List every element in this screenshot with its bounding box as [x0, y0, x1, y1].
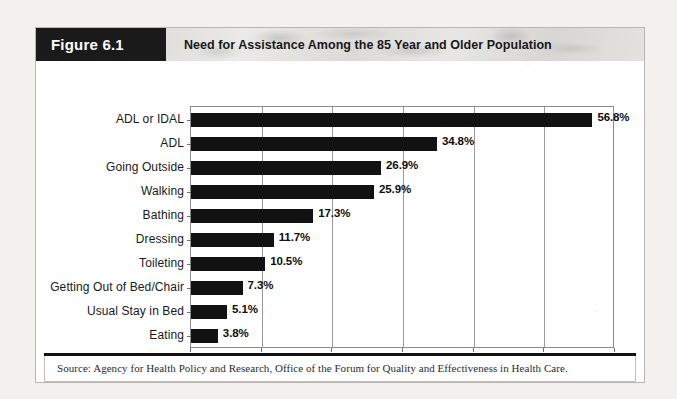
- x-axis-tick: [190, 348, 191, 352]
- figure-number-tag: Figure 6.1: [36, 28, 166, 61]
- source-box: Source: Agency for Health Policy and Res…: [44, 356, 636, 382]
- plot-area: 56.8%34.8%26.9%25.9%17.3%11.7%10.5%7.3%5…: [190, 106, 614, 348]
- bar-value-label: 5.1%: [232, 303, 258, 315]
- bar-value-label: 25.9%: [379, 183, 411, 195]
- bar: [191, 185, 374, 199]
- bar-value-label: 34.8%: [442, 135, 474, 147]
- bar: [191, 257, 265, 271]
- category-label: Getting Out of Bed/Chair: [50, 275, 184, 299]
- bar-value-label: 17.3%: [318, 207, 350, 219]
- bar: [191, 329, 218, 343]
- bar-row: 17.3%: [191, 204, 613, 228]
- bar: [191, 137, 437, 151]
- bar-value-label: 11.7%: [279, 231, 310, 243]
- category-label: Usual Stay in Bed: [87, 299, 184, 323]
- category-label: Toileting: [139, 251, 184, 275]
- category-label: ADL: [160, 131, 184, 155]
- category-label: Eating: [149, 323, 184, 347]
- x-axis-tick: [331, 348, 332, 352]
- bar-row: 3.8%: [191, 324, 613, 348]
- bar: [191, 305, 227, 319]
- bar-row: 10.5%: [191, 252, 613, 276]
- x-axis-tick: [543, 348, 544, 352]
- figure-container: Figure 6.1 Need for Assistance Among the…: [35, 27, 645, 383]
- bar-row: 34.8%: [191, 132, 613, 156]
- bar-row: 11.7%: [191, 228, 613, 252]
- source-note: Source: Agency for Health Policy and Res…: [57, 362, 568, 374]
- x-axis-tick: [473, 348, 474, 352]
- category-label: ADL or IDAL: [116, 107, 184, 131]
- bar: [191, 281, 243, 295]
- bar: [191, 113, 592, 127]
- category-label: Going Outside: [106, 155, 184, 179]
- category-label: Dressing: [136, 227, 184, 251]
- chart-area: ADL or IDALADLGoing OutsideWalkingBathin…: [36, 61, 644, 349]
- x-axis-tick: [614, 348, 615, 352]
- bar-value-label: 56.8%: [597, 111, 629, 123]
- bar-row: 5.1%: [191, 300, 613, 324]
- bar-value-label: 3.8%: [223, 327, 249, 339]
- x-axis-tick: [402, 348, 403, 352]
- bar-row: 25.9%: [191, 180, 613, 204]
- category-label: Walking: [141, 179, 184, 203]
- bar-value-label: 26.9%: [386, 159, 418, 171]
- bar: [191, 161, 381, 175]
- x-axis-tick: [261, 348, 262, 352]
- bar-value-label: 10.5%: [270, 255, 302, 267]
- bar-row: 26.9%: [191, 156, 613, 180]
- bar-row: 56.8%: [191, 108, 613, 132]
- bar: [191, 233, 274, 247]
- category-label: Bathing: [143, 203, 184, 227]
- bar-value-label: 7.3%: [248, 279, 274, 291]
- figure-title: Need for Assistance Among the 85 Year an…: [184, 28, 552, 61]
- bar-row: 7.3%: [191, 276, 613, 300]
- bar: [191, 209, 313, 223]
